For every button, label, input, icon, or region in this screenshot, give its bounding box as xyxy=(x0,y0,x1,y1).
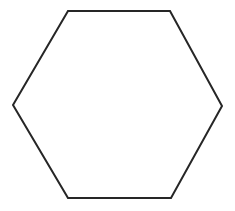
canvas-background xyxy=(0,0,235,211)
hexagon-figure: Hexagon outline xyxy=(0,0,235,211)
image-canvas: Hexagon outline xyxy=(0,0,235,211)
